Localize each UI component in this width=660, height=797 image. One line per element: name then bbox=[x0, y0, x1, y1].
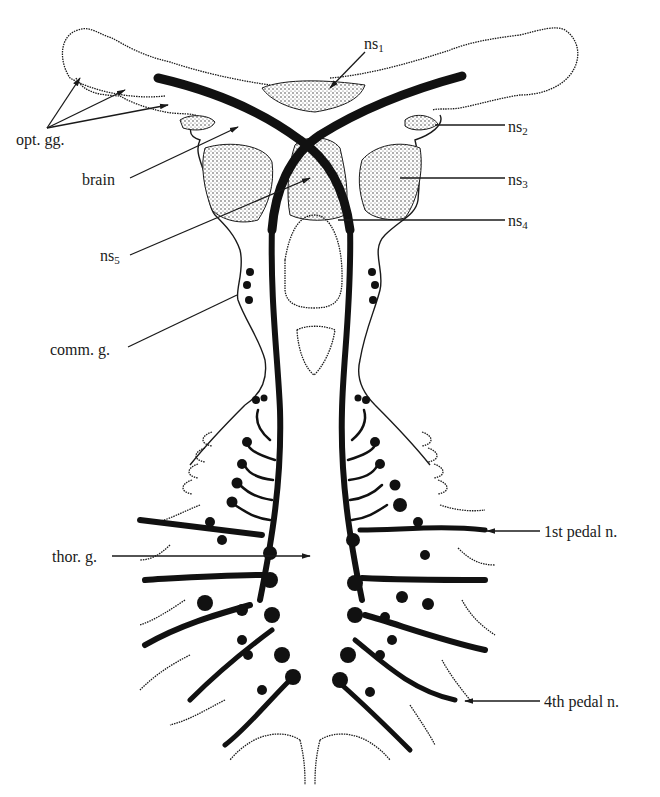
esophageal-foramen bbox=[285, 215, 342, 308]
label-fourth-pedal-nerve: 4th pedal n. bbox=[544, 694, 619, 710]
label-commissural-ganglion: comm. g. bbox=[50, 342, 110, 358]
label-ns3: ns3 bbox=[508, 172, 528, 190]
ns2-left-cluster bbox=[180, 116, 215, 130]
label-brain: brain bbox=[82, 172, 115, 188]
ns1-cluster bbox=[262, 81, 365, 112]
label-first-pedal-nerve: 1st pedal n. bbox=[544, 524, 617, 540]
ns2-right-cluster bbox=[405, 115, 438, 130]
label-ns2: ns2 bbox=[508, 119, 528, 137]
label-optic-ganglia: opt. gg. bbox=[16, 132, 64, 148]
label-ns5: ns5 bbox=[100, 248, 120, 266]
ns3-right-cluster bbox=[359, 144, 421, 219]
label-ns4: ns4 bbox=[508, 213, 528, 231]
label-thoracic-ganglion: thor. g. bbox=[52, 549, 97, 565]
label-ns1: ns1 bbox=[364, 36, 384, 54]
thoracic-neurons-left bbox=[140, 395, 301, 746]
ventral-cords bbox=[260, 225, 362, 600]
thoracic-outline bbox=[190, 405, 430, 785]
ns3-left-cluster bbox=[203, 144, 273, 222]
posterior-foramen bbox=[297, 326, 335, 375]
commissural-ganglion-cells bbox=[243, 268, 379, 304]
nervous-system-illustration bbox=[0, 0, 660, 797]
